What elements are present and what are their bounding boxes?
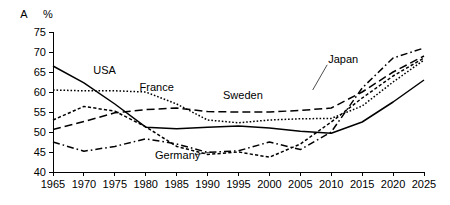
series-label-japan: Japan [328,53,358,65]
y-tick-label: 55 [34,106,46,118]
x-tick-label: 2000 [257,178,281,190]
y-tick-label: 40 [34,166,46,178]
x-tick-label: 1985 [164,178,188,190]
x-tick-label: 1990 [195,178,219,190]
x-tick-label: 1975 [103,178,127,190]
x-tick-label: 2015 [350,178,374,190]
leader-line-japan [313,65,327,90]
x-tick-label: 1970 [72,178,96,190]
y-tick-label: 70 [34,46,46,58]
y-axis-unit-label: % [43,8,53,20]
x-tick-label: 2005 [288,178,312,190]
y-tick-label: 65 [34,66,46,78]
y-tick-label: 60 [34,86,46,98]
x-tick-label: 2010 [319,178,343,190]
series-label-sweden: Sweden [223,89,263,101]
y-tick-label: 75 [34,26,46,38]
series-label-france: France [140,81,174,93]
line-chart: 4045505560657075196519701975198019851990… [0,0,450,205]
y-tick-label: 50 [34,126,46,138]
y-tick-label: 45 [34,146,46,158]
panel-label: A [20,8,28,20]
series-label-germany: Germany [155,149,201,161]
chart-figure: 4045505560657075196519701975198019851990… [0,0,450,205]
x-tick-label: 2020 [381,178,405,190]
x-tick-label: 1995 [226,178,250,190]
x-tick-label: 2025 [412,178,436,190]
series-labels: USAFranceGermanySwedenJapan [93,53,358,161]
series-label-usa: USA [93,64,116,76]
x-tick-label: 1980 [134,178,158,190]
x-tick-label: 1965 [41,178,65,190]
